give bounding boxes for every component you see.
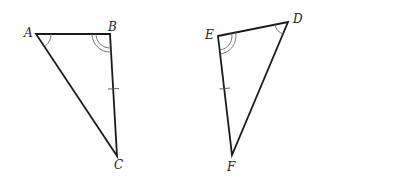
- angle-b-arc-inner: [96, 34, 111, 48]
- triangle-abc-outline: [36, 34, 117, 156]
- triangle-def: D E F: [204, 12, 303, 174]
- angle-a-arc: [46, 34, 52, 46]
- angle-d-arc: [275, 25, 283, 34]
- diagram-canvas: A B C D E F: [0, 0, 415, 184]
- angle-b-arc-outer: [92, 34, 111, 52]
- vertex-label-c: C: [114, 158, 123, 172]
- vertex-label-f: F: [226, 160, 236, 174]
- vertex-label-e: E: [204, 28, 214, 42]
- vertex-label-b: B: [107, 20, 117, 34]
- vertex-label-a: A: [23, 26, 33, 40]
- triangle-abc: A B C: [23, 20, 123, 172]
- side-ef-tick: [220, 88, 231, 89]
- vertex-label-d: D: [292, 12, 303, 26]
- side-bc-tick: [108, 89, 119, 90]
